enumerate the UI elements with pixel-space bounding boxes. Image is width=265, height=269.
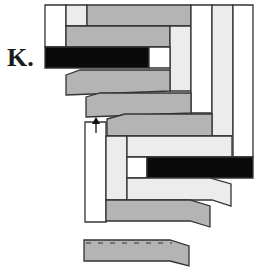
white-vertical-2-piece [233, 5, 253, 157]
second-gray-strip-piece [66, 26, 170, 47]
inner-light-vertical-piece [170, 26, 191, 91]
top-gray-strip-piece [87, 5, 191, 26]
light-vertical-1-piece [212, 5, 233, 136]
white-vertical-1-piece [191, 5, 212, 113]
light-strip-mid-piece [127, 136, 232, 157]
light-vertical-left-piece [106, 136, 127, 200]
gray-slanted-bottom-piece [106, 200, 210, 227]
gray-slanted-1-piece [66, 70, 170, 95]
white-square-bottom-piece [127, 157, 147, 178]
top-small-light-piece [66, 5, 87, 26]
white-vertical-left-piece [85, 122, 106, 222]
top-left-white-piece [45, 5, 66, 47]
black-strip-bottom-piece [147, 157, 253, 178]
white-square-top-piece [149, 47, 170, 68]
quilt-block-diagram [0, 0, 265, 269]
black-strip-top-piece [45, 47, 149, 68]
gray-strip-3-piece [107, 114, 212, 136]
loose-strip-piece [84, 240, 189, 266]
